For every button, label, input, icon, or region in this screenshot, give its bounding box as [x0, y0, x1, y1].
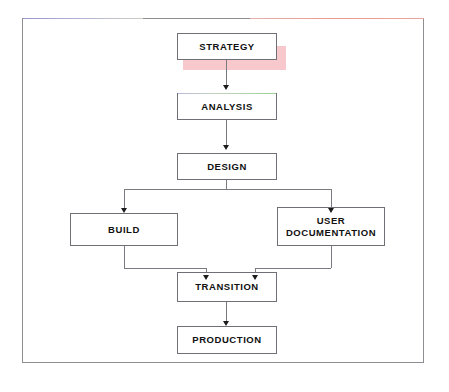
node-analysis-label: ANALYSIS: [201, 101, 253, 113]
edge-strategy-analysis-stem: [226, 60, 227, 86]
edge-build-transition-drop: [124, 246, 125, 268]
node-production[interactable]: PRODUCTION: [177, 326, 277, 354]
edge-transition-production-arrow: [223, 321, 229, 326]
node-strategy[interactable]: STRATEGY: [177, 33, 277, 60]
edge-design-documentation-arrow: [328, 208, 334, 213]
edge-documentation-transition-bus: [255, 268, 331, 269]
edge-design-build-arrow: [121, 208, 127, 213]
node-analysis[interactable]: ANALYSIS: [177, 93, 277, 120]
edge-design-build-drop: [124, 189, 125, 209]
edge-design-split-bus: [124, 189, 331, 190]
edge-analysis-design-arrow: [223, 145, 229, 150]
frame-fringe-right: [250, 18, 424, 19]
analysis-top-edge-tint: [178, 93, 276, 94]
node-build[interactable]: BUILD: [70, 213, 178, 246]
edge-design-split-stem: [226, 180, 227, 189]
node-design[interactable]: DESIGN: [177, 153, 277, 180]
node-transition-label: TRANSITION: [195, 281, 259, 293]
diagram-canvas: STRATEGY ANALYSIS DESIGN BUILD USER DOCU…: [0, 0, 449, 392]
edge-documentation-transition-drop: [331, 246, 332, 268]
node-build-label: BUILD: [108, 224, 140, 236]
node-production-label: PRODUCTION: [192, 334, 261, 346]
edge-build-transition-bus: [124, 268, 206, 269]
node-documentation-label-line1: USER: [317, 215, 346, 227]
edge-build-transition-arrow: [203, 275, 209, 280]
edge-strategy-analysis-arrow: [223, 85, 229, 90]
edge-design-documentation-drop: [331, 189, 332, 209]
node-design-label: DESIGN: [207, 161, 247, 173]
node-strategy-label: STRATEGY: [199, 41, 254, 53]
edge-transition-production-stem: [226, 302, 227, 322]
node-documentation-label-line2: DOCUMENTATION: [286, 227, 376, 239]
frame-fringe-left: [23, 18, 143, 19]
node-transition[interactable]: TRANSITION: [177, 272, 277, 302]
edge-documentation-transition-arrow: [252, 275, 258, 280]
edge-analysis-design-stem: [226, 120, 227, 146]
